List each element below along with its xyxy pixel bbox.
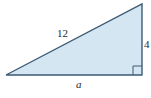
triangle-shape bbox=[6, 4, 142, 75]
right-triangle-diagram: 12 4 a bbox=[0, 0, 151, 98]
horizontal-leg-label: a bbox=[76, 78, 82, 90]
hypotenuse-label: 12 bbox=[57, 27, 68, 39]
vertical-leg-label: 4 bbox=[144, 38, 150, 50]
